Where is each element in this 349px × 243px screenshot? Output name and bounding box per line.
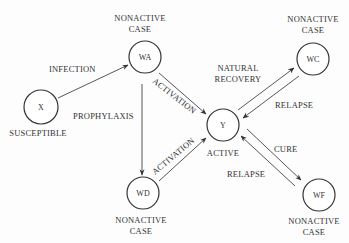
state-diagram: X SUSCEPTIBLE WA NONACTIVE CASE WC NONAC… xyxy=(0,0,349,243)
node-wd: WD NONACTIVE CASE xyxy=(115,177,166,236)
caption-wc-2: CASE xyxy=(302,25,325,35)
caption-wf-1: NONACTIVE xyxy=(288,216,339,226)
node-wa-label: WA xyxy=(139,53,152,62)
node-y: Y ACTIVE xyxy=(207,109,239,158)
label-cure: CURE xyxy=(274,144,297,154)
caption-wd-2: CASE xyxy=(130,226,153,236)
node-wf-label: WF xyxy=(313,191,326,200)
edges xyxy=(58,65,301,186)
caption-susceptible: SUSCEPTIBLE xyxy=(9,128,66,138)
label-natural-recovery-2: RECOVERY xyxy=(215,74,262,84)
node-wc: WC NONACTIVE CASE xyxy=(287,14,338,75)
node-x-label: X xyxy=(38,103,44,112)
label-activation-top: ACTIVATION xyxy=(151,76,198,116)
node-wc-label: WC xyxy=(307,55,320,64)
caption-wa-1: NONACTIVE xyxy=(114,13,165,23)
node-wa: WA NONACTIVE CASE xyxy=(114,13,165,73)
label-activation-bottom: ACTIVATION xyxy=(150,135,197,176)
label-relapse-wf: RELAPSE xyxy=(227,169,265,179)
label-relapse-wc: RELAPSE xyxy=(275,100,313,110)
label-infection: INFECTION xyxy=(49,64,96,74)
diagram-canvas: X SUSCEPTIBLE WA NONACTIVE CASE WC NONAC… xyxy=(0,0,349,243)
label-prophylaxis: PROPHYLAXIS xyxy=(73,111,134,121)
caption-wd-1: NONACTIVE xyxy=(115,215,166,225)
node-x: X SUSCEPTIBLE xyxy=(9,90,66,138)
caption-active: ACTIVE xyxy=(207,148,239,158)
label-natural-recovery-1: NATURAL xyxy=(217,63,258,73)
node-wf: WF NONACTIVE CASE xyxy=(288,179,339,237)
caption-wc-1: NONACTIVE xyxy=(287,14,338,24)
node-y-label: Y xyxy=(220,121,226,130)
caption-wf-2: CASE xyxy=(303,227,326,237)
node-wd-label: WD xyxy=(136,189,150,198)
caption-wa-2: CASE xyxy=(129,24,152,34)
